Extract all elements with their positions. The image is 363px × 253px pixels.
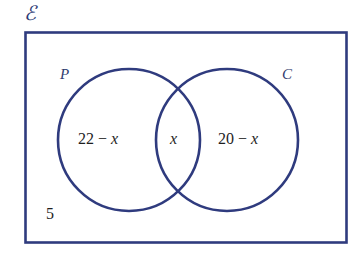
set-label-c: C: [282, 67, 292, 82]
region-p-only-variable: x: [111, 130, 118, 147]
region-c-only-number: 20 −: [218, 130, 251, 147]
region-c-only-variable: x: [251, 130, 258, 147]
region-label-c-only: 20 − x: [218, 131, 258, 147]
region-intersection-variable: x: [170, 130, 177, 147]
venn-diagram-graphic: [0, 0, 363, 253]
region-label-p-only: 22 − x: [78, 131, 118, 147]
venn-diagram-canvas: ℰ P C 22 − x x 20 − x 5: [0, 0, 363, 253]
region-label-outside: 5: [46, 206, 54, 222]
set-label-p: P: [60, 67, 69, 82]
universal-set-label: ℰ: [24, 3, 36, 23]
region-label-intersection: x: [170, 131, 177, 147]
region-p-only-number: 22 −: [78, 130, 111, 147]
